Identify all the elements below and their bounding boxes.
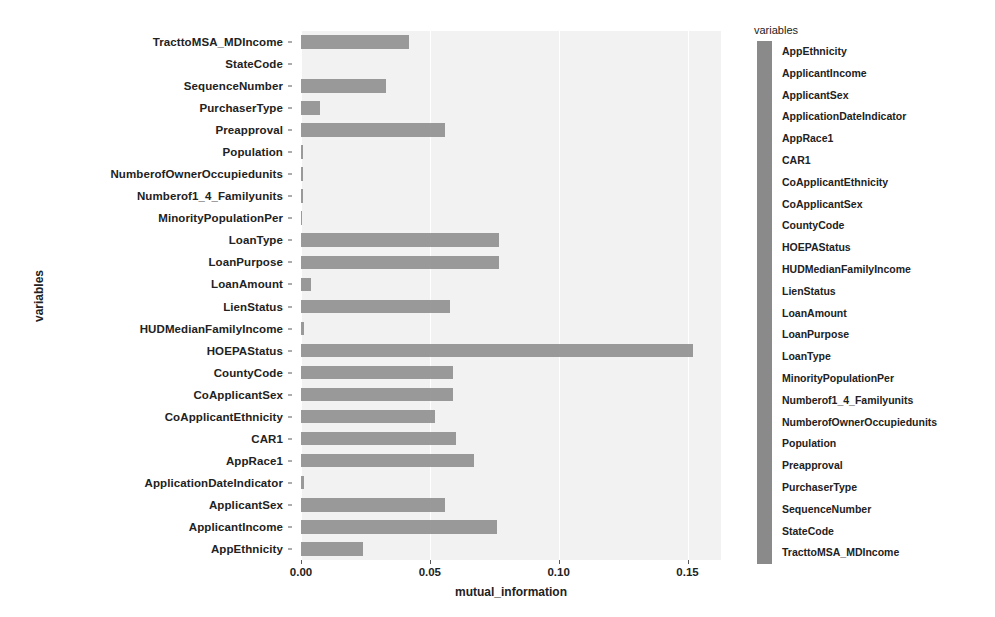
- bar-row[interactable]: [301, 406, 721, 428]
- legend-item[interactable]: ApplicationDateIndicator: [782, 106, 984, 128]
- legend-item[interactable]: SequenceNumber: [782, 499, 984, 521]
- bar[interactable]: [301, 344, 693, 358]
- y-axis-tick: [288, 350, 292, 351]
- y-axis-label: ApplicantSex: [209, 499, 283, 511]
- bar[interactable]: [301, 454, 474, 468]
- legend-item[interactable]: Preapproval: [782, 455, 984, 477]
- bar[interactable]: [301, 256, 499, 270]
- y-axis-tick: [288, 86, 292, 87]
- x-axis-tick-label: 0.15: [676, 566, 698, 578]
- legend-item[interactable]: ApplicantIncome: [782, 63, 984, 85]
- bar-row[interactable]: [301, 317, 721, 339]
- bar-row[interactable]: [301, 384, 721, 406]
- bar-row[interactable]: [301, 119, 721, 141]
- legend-item[interactable]: ApplicantSex: [782, 85, 984, 107]
- x-axis-title: mutual_information: [455, 585, 567, 599]
- legend-item[interactable]: CoApplicantEthnicity: [782, 172, 984, 194]
- x-axis-tick-label: 0.10: [547, 566, 569, 578]
- bar[interactable]: [301, 167, 303, 181]
- bar[interactable]: [301, 189, 303, 203]
- bar-row[interactable]: [301, 185, 721, 207]
- bar[interactable]: [301, 388, 453, 402]
- bar[interactable]: [301, 123, 445, 137]
- bar[interactable]: [301, 233, 499, 247]
- bar-row[interactable]: [301, 295, 721, 317]
- bar[interactable]: [301, 410, 435, 424]
- bar[interactable]: [301, 520, 497, 534]
- legend-item[interactable]: AppRace1: [782, 128, 984, 150]
- x-axis-tick: [688, 560, 689, 564]
- bar-row[interactable]: [301, 494, 721, 516]
- y-axis-label: MinorityPopulationPer: [158, 212, 283, 224]
- bar-row[interactable]: [301, 472, 721, 494]
- bar-row[interactable]: [301, 229, 721, 251]
- x-axis-tick: [559, 560, 560, 564]
- bar[interactable]: [301, 498, 445, 512]
- legend-item[interactable]: LoanAmount: [782, 303, 984, 325]
- y-axis-tick: [288, 416, 292, 417]
- y-axis-label: LoanPurpose: [208, 256, 283, 268]
- y-axis-label: HOEPAStatus: [207, 345, 283, 357]
- bar[interactable]: [301, 278, 311, 292]
- y-axis-tick: [288, 504, 292, 505]
- bar-row[interactable]: [301, 97, 721, 119]
- legend-item[interactable]: CAR1: [782, 150, 984, 172]
- bar[interactable]: [301, 366, 453, 380]
- legend-item[interactable]: AppEthnicity: [782, 41, 984, 63]
- x-axis-tick-label: 0.05: [419, 566, 441, 578]
- y-axis-tick: [288, 64, 292, 65]
- x-axis-tick: [430, 560, 431, 564]
- y-axis-tick: [288, 328, 292, 329]
- bar-row[interactable]: [301, 251, 721, 273]
- legend-item[interactable]: TracttoMSA_MDIncome: [782, 542, 984, 564]
- bar-row[interactable]: [301, 428, 721, 450]
- legend-item[interactable]: NumberofOwnerOccupiedunits: [782, 412, 984, 434]
- bar[interactable]: [301, 542, 363, 556]
- y-axis-tick: [288, 284, 292, 285]
- y-axis-label: Preapproval: [215, 124, 283, 136]
- bar[interactable]: [301, 101, 320, 115]
- bar-row[interactable]: [301, 75, 721, 97]
- y-axis-label: TracttoMSA_MDIncome: [153, 36, 283, 48]
- y-axis-label: PurchaserType: [199, 102, 283, 114]
- legend-item[interactable]: StateCode: [782, 521, 984, 543]
- bar[interactable]: [301, 79, 386, 93]
- bar-row[interactable]: [301, 141, 721, 163]
- bar-row[interactable]: [301, 53, 721, 75]
- bar-row[interactable]: [301, 207, 721, 229]
- legend: variables AppEthnicityApplicantIncomeApp…: [752, 24, 984, 564]
- legend-item[interactable]: Numberof1_4_Familyunits: [782, 390, 984, 412]
- bar-row[interactable]: [301, 339, 721, 361]
- bar[interactable]: [301, 300, 450, 314]
- bar-row[interactable]: [301, 163, 721, 185]
- legend-item[interactable]: Population: [782, 433, 984, 455]
- bar[interactable]: [301, 476, 304, 490]
- legend-colorbar: [757, 41, 772, 564]
- bar-row[interactable]: [301, 273, 721, 295]
- bar[interactable]: [301, 211, 302, 225]
- bar[interactable]: [301, 322, 304, 336]
- y-axis-label: LoanType: [229, 234, 283, 246]
- y-axis-tick: [288, 482, 292, 483]
- legend-item[interactable]: LoanPurpose: [782, 324, 984, 346]
- legend-item[interactable]: LienStatus: [782, 281, 984, 303]
- legend-item[interactable]: PurchaserType: [782, 477, 984, 499]
- legend-item[interactable]: LoanType: [782, 346, 984, 368]
- legend-item[interactable]: MinorityPopulationPer: [782, 368, 984, 390]
- bar-chart-figure: variables TracttoMSA_MDIncomeStateCodeSe…: [0, 0, 995, 617]
- x-axis-tick-label: 0.00: [290, 566, 312, 578]
- bar-row[interactable]: [301, 516, 721, 538]
- bar[interactable]: [301, 145, 303, 159]
- legend-item[interactable]: HUDMedianFamilyIncome: [782, 259, 984, 281]
- bar[interactable]: [301, 35, 409, 49]
- y-axis-tick: [288, 306, 292, 307]
- bar-row[interactable]: [301, 538, 721, 560]
- legend-item[interactable]: CountyCode: [782, 215, 984, 237]
- bar[interactable]: [301, 432, 456, 446]
- bar-row[interactable]: [301, 450, 721, 472]
- y-axis-tick: [288, 372, 292, 373]
- bar-row[interactable]: [301, 361, 721, 383]
- legend-item[interactable]: HOEPAStatus: [782, 237, 984, 259]
- legend-item[interactable]: CoApplicantSex: [782, 194, 984, 216]
- bar-row[interactable]: [301, 31, 721, 53]
